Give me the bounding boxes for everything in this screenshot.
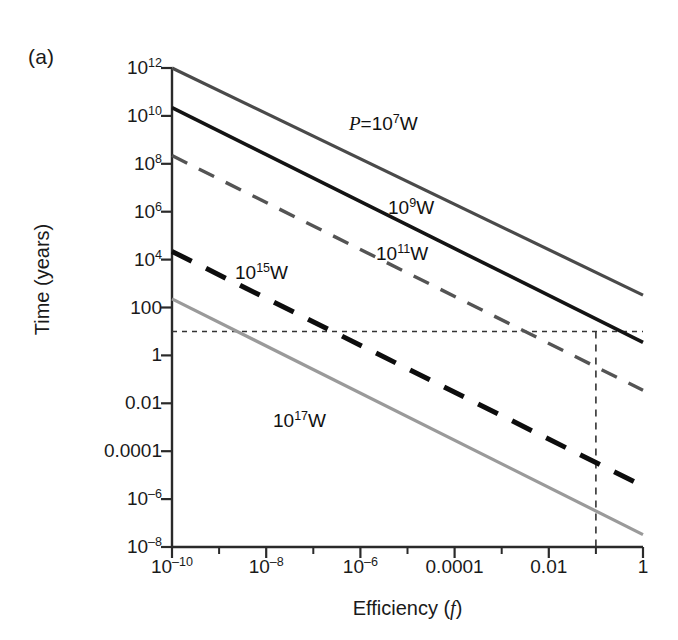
x-axis-title: Efficiency (f) bbox=[172, 597, 643, 620]
x-tick-label-4: 0.01 bbox=[530, 556, 567, 578]
y-tick-label-8: 0.0001 bbox=[104, 440, 162, 462]
reference-lines bbox=[172, 331, 643, 547]
x-tick-label-0: 10–10 bbox=[151, 556, 193, 578]
x-tick-label-1: 10–8 bbox=[249, 556, 284, 578]
chart-svg bbox=[172, 68, 643, 547]
y-tick-label-10: 10–8 bbox=[127, 536, 162, 558]
y-tick-label-1: 1010 bbox=[127, 105, 162, 127]
figure-panel-a: (a) Time (years) Efficiency (f) 10121010… bbox=[0, 0, 678, 640]
y-tick-label-5: 100 bbox=[130, 297, 162, 319]
curve-label-p15: 1015W bbox=[235, 262, 288, 284]
x-tick-label-5: 1 bbox=[638, 556, 649, 578]
x-axis-symbol-f: f bbox=[450, 597, 456, 619]
y-tick-label-4: 104 bbox=[134, 249, 162, 271]
axis-ticks bbox=[161, 68, 643, 558]
curve-label-p7: P=107W bbox=[349, 113, 418, 135]
panel-label: (a) bbox=[28, 45, 54, 69]
y-axis-tick-labels: 1012101010810610410010.010.000110–610–8 bbox=[0, 68, 162, 547]
x-tick-label-3: 0.0001 bbox=[426, 556, 484, 578]
plot-area bbox=[172, 68, 643, 547]
y-tick-label-3: 106 bbox=[134, 201, 162, 223]
x-axis-title-text: Efficiency (f) bbox=[353, 597, 463, 619]
series-line-1 bbox=[172, 108, 643, 343]
data-series bbox=[172, 68, 643, 535]
y-tick-label-7: 0.01 bbox=[125, 392, 162, 414]
curve-label-p11: 1011W bbox=[376, 243, 428, 265]
curve-label-p9: 109W bbox=[388, 197, 434, 219]
y-tick-label-2: 108 bbox=[134, 153, 162, 175]
series-line-4 bbox=[172, 299, 643, 535]
y-tick-label-0: 1012 bbox=[127, 57, 162, 79]
x-tick-label-2: 10–6 bbox=[343, 556, 378, 578]
curve-label-p17: 1017W bbox=[273, 410, 326, 432]
y-tick-label-9: 10–6 bbox=[127, 488, 162, 510]
series-line-3 bbox=[172, 251, 643, 486]
y-tick-label-6: 1 bbox=[151, 344, 162, 366]
